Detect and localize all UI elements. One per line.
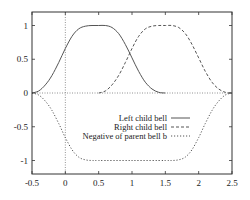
y-tick-label: 0: [24, 88, 29, 98]
legend: Left child bellRight child bellNegative …: [83, 113, 191, 141]
y-tick-label: 0.5: [17, 54, 29, 64]
x-axis-ticks: -0.500.511.522.5: [25, 12, 238, 188]
legend-label: Negative of parent bell b: [83, 131, 168, 141]
y-tick-label: -0.5: [14, 122, 29, 132]
series-1-line: [99, 25, 232, 93]
x-tick-label: 2.5: [226, 178, 238, 188]
y-tick-label: -1: [21, 156, 29, 166]
x-tick-label: 1.5: [160, 178, 172, 188]
x-tick-label: 0: [63, 178, 68, 188]
y-tick-label: 1: [24, 21, 29, 31]
x-tick-label: 2: [196, 178, 201, 188]
zero-axis-lines: [32, 12, 232, 174]
x-tick-label: 1: [130, 178, 135, 188]
x-tick-label: -0.5: [25, 178, 40, 188]
series-0-line: [32, 25, 165, 93]
x-tick-label: 0.5: [93, 178, 105, 188]
line-chart: -0.500.511.522.5 -1-0.500.51 Left child …: [0, 0, 250, 200]
